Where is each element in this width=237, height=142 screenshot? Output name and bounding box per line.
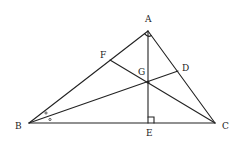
right-angle-mark-e (148, 117, 154, 123)
segment-ab (29, 31, 148, 123)
label-e: E (146, 128, 153, 138)
label-c: C (222, 121, 229, 131)
segment-ac (148, 31, 215, 123)
angle-mark-b2 (49, 118, 51, 120)
geometry-diagram: A B C D E F G (0, 0, 237, 142)
segment-cf (110, 60, 215, 123)
label-f: F (100, 50, 106, 60)
bisector-bd (29, 71, 178, 123)
label-g: G (138, 67, 145, 77)
label-d: D (182, 63, 189, 73)
label-a: A (144, 14, 152, 24)
label-b: B (15, 121, 22, 131)
point-g (146, 80, 149, 83)
angle-mark-b1 (45, 112, 47, 114)
